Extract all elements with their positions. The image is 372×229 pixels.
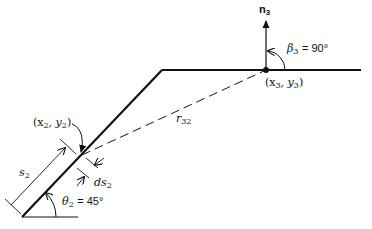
ds2-arrow-lower [77,177,84,186]
point-2-label: (x2, y2) [33,117,71,130]
s2-tick-base [5,199,21,214]
distance-r32-dashed-line [82,70,266,155]
arclength-s2-label: s2 [19,167,30,180]
theta-angle-label: θ2 = 45° [62,196,103,209]
point-3-label: (x3, y3) [265,77,303,90]
point-2-leader-arrow [72,124,82,152]
distance-r32-label: r32 [176,113,191,126]
normal-vector-label: n3 [259,4,270,17]
beta-angle-arc [268,51,285,70]
s2-tick-top [60,139,76,154]
boundary-geometry-diagram: n3 β3 = 90° (x3, y3) (x2, y2) r32 s2 ds2… [0,0,372,229]
element-ds2-label: ds2 [94,177,112,190]
ds2-tick-upper [86,158,98,168]
beta-angle-label: β3 = 90° [287,43,328,56]
theta-angle-arc [46,193,56,217]
ds2-arrow-upper [95,158,104,165]
ds2-tick-lower [77,168,89,178]
